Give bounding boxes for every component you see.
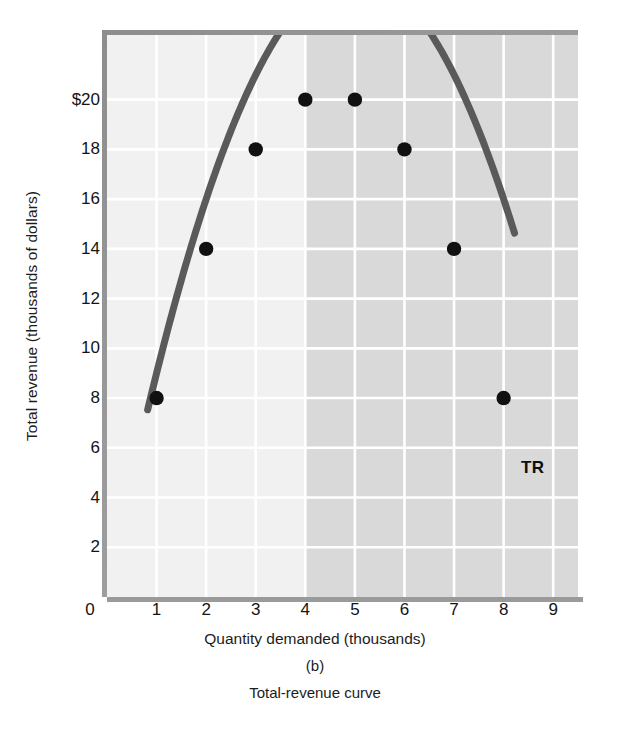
y-tick-label-8: 8 <box>91 388 100 408</box>
figure-caption: Total-revenue curve <box>0 684 630 701</box>
data-point-6-18 <box>397 142 411 156</box>
x-tick-label-4: 4 <box>301 600 310 620</box>
x-tick-label-5: 5 <box>350 600 359 620</box>
data-point-1-8 <box>149 391 163 405</box>
plot-frame: TR <box>107 35 578 597</box>
x-tick-label-0: 0 <box>85 600 94 620</box>
x-tick-label-6: 6 <box>400 600 409 620</box>
y-tick-label-20: $20 <box>72 90 100 110</box>
x-axis-tick-labels: 0123456789 <box>0 600 630 630</box>
data-point-2-14 <box>199 242 213 256</box>
x-tick-label-1: 1 <box>152 600 161 620</box>
y-tick-label-2: 2 <box>91 537 100 557</box>
total-revenue-curve <box>107 35 578 597</box>
data-point-5-20 <box>348 92 362 106</box>
curve-series-label-tr: TR <box>521 458 545 478</box>
y-tick-label-4: 4 <box>91 488 100 508</box>
y-tick-label-16: 16 <box>81 189 100 209</box>
plot-area <box>107 35 578 597</box>
y-tick-label-18: 18 <box>81 139 100 159</box>
x-tick-label-7: 7 <box>449 600 458 620</box>
x-axis-title: Quantity demanded (thousands) <box>0 630 630 648</box>
y-tick-label-10: 10 <box>81 338 100 358</box>
data-point-7-14 <box>447 242 461 256</box>
x-tick-label-2: 2 <box>201 600 210 620</box>
data-point-4-20 <box>298 92 312 106</box>
y-axis-tick-labels: 24681012141618$20 <box>44 35 100 597</box>
x-tick-label-8: 8 <box>499 600 508 620</box>
x-tick-label-9: 9 <box>548 600 557 620</box>
y-tick-label-6: 6 <box>91 438 100 458</box>
data-point-3-18 <box>249 142 263 156</box>
panel-letter: (b) <box>0 657 630 674</box>
data-point-8-8 <box>496 391 510 405</box>
x-tick-label-3: 3 <box>251 600 260 620</box>
y-tick-label-12: 12 <box>81 289 100 309</box>
y-tick-label-14: 14 <box>81 239 100 259</box>
